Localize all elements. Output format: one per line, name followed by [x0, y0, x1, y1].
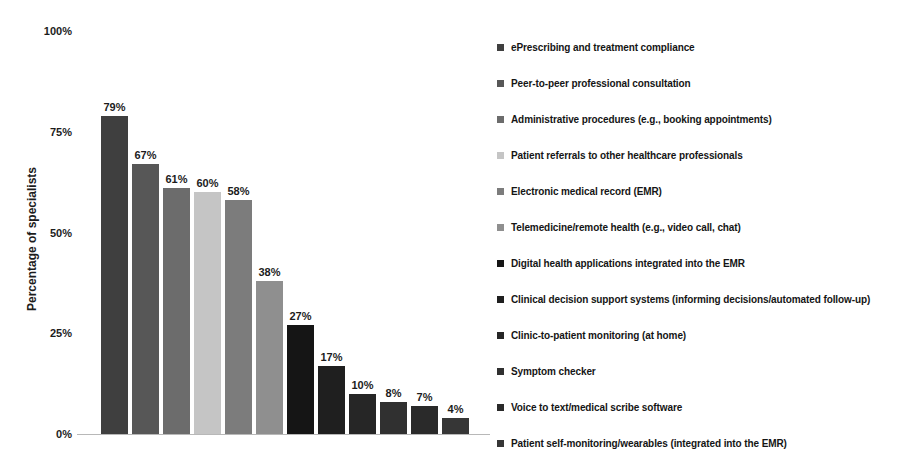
bar-group: 67% — [132, 149, 159, 434]
legend-marker-swatch — [497, 404, 504, 411]
y-tick-label: 75% — [12, 124, 72, 140]
legend-item: Clinical decision support systems (infor… — [497, 281, 897, 317]
legend-marker-swatch — [497, 116, 504, 123]
bar-value-label: 60% — [196, 177, 218, 189]
legend-item-label: Patient referrals to other healthcare pr… — [511, 150, 743, 161]
legend-item-label: Patient self-monitoring/wearables (integ… — [511, 438, 787, 449]
bar-value-label: 27% — [289, 310, 311, 322]
legend-item-label: Clinical decision support systems (infor… — [511, 294, 870, 305]
bar-chart: Percentage of specialists 100%75%50%25%0… — [0, 0, 899, 466]
bar-group: 79% — [101, 101, 128, 434]
legend-marker-swatch — [497, 80, 504, 87]
legend-item: Voice to text/medical scribe software — [497, 389, 897, 425]
legend-item: Administrative procedures (e.g., booking… — [497, 101, 897, 137]
legend-item: ePrescribing and treatment compliance — [497, 29, 897, 65]
legend-item: Peer-to-peer professional consultation — [497, 65, 897, 101]
bar-value-label: 38% — [258, 266, 280, 278]
bar — [132, 164, 159, 434]
legend-item-label: Telemedicine/remote health (e.g., video … — [511, 222, 741, 233]
bar-value-label: 79% — [103, 101, 125, 113]
legend-item-label: Symptom checker — [511, 366, 596, 377]
bar — [349, 394, 376, 434]
bar-value-label: 7% — [417, 391, 433, 403]
bar — [225, 200, 252, 434]
bar — [442, 418, 469, 434]
legend: ePrescribing and treatment compliancePee… — [497, 29, 897, 461]
legend-item-label: Clinic-to-patient monitoring (at home) — [511, 330, 686, 341]
bar — [287, 325, 314, 434]
bar — [256, 281, 283, 434]
bar-value-label: 4% — [448, 403, 464, 415]
legend-marker-swatch — [497, 296, 504, 303]
legend-item-label: Peer-to-peer professional consultation — [511, 78, 691, 89]
legend-item-label: Digital health applications integrated i… — [511, 258, 745, 269]
legend-marker-swatch — [497, 260, 504, 267]
bar-group: 61% — [163, 173, 190, 434]
bar-group: 58% — [225, 185, 252, 434]
bar-value-label: 8% — [386, 387, 402, 399]
bar-group: 38% — [256, 266, 283, 434]
bar-group: 60% — [194, 177, 221, 434]
plot-area: 79%67%61%60%58%38%27%17%10%8%7%4% — [101, 31, 469, 434]
legend-item: Patient referrals to other healthcare pr… — [497, 137, 897, 173]
bar-group: 27% — [287, 310, 314, 434]
legend-item-label: Voice to text/medical scribe software — [511, 402, 682, 413]
legend-marker-swatch — [497, 440, 504, 447]
y-tick-label: 50% — [12, 225, 72, 241]
bar-group: 17% — [318, 351, 345, 435]
bar — [163, 188, 190, 434]
legend-item: Symptom checker — [497, 353, 897, 389]
legend-marker-swatch — [497, 224, 504, 231]
legend-marker-swatch — [497, 44, 504, 51]
legend-item: Electronic medical record (EMR) — [497, 173, 897, 209]
bar — [101, 116, 128, 434]
bar-group: 4% — [442, 403, 469, 434]
bar — [411, 406, 438, 434]
bar-group: 10% — [349, 379, 376, 434]
legend-item-label: Administrative procedures (e.g., booking… — [511, 114, 772, 125]
bar-value-label: 61% — [165, 173, 187, 185]
bar-value-label: 58% — [227, 185, 249, 197]
bar-value-label: 10% — [351, 379, 373, 391]
bar — [380, 402, 407, 434]
legend-marker-swatch — [497, 368, 504, 375]
x-axis-line — [77, 434, 490, 435]
bar-group: 7% — [411, 391, 438, 434]
bar-value-label: 17% — [320, 351, 342, 363]
bar-group: 8% — [380, 387, 407, 434]
legend-marker-swatch — [497, 152, 504, 159]
legend-item: Telemedicine/remote health (e.g., video … — [497, 209, 897, 245]
bar — [318, 366, 345, 435]
legend-item: Clinic-to-patient monitoring (at home) — [497, 317, 897, 353]
y-tick-label: 25% — [12, 325, 72, 341]
legend-marker-swatch — [497, 332, 504, 339]
legend-marker-swatch — [497, 188, 504, 195]
legend-item-label: ePrescribing and treatment compliance — [511, 42, 695, 53]
y-tick-label: 100% — [12, 23, 72, 39]
bar-value-label: 67% — [134, 149, 156, 161]
legend-item: Digital health applications integrated i… — [497, 245, 897, 281]
bar — [194, 192, 221, 434]
legend-item-label: Electronic medical record (EMR) — [511, 186, 662, 197]
legend-item: Patient self-monitoring/wearables (integ… — [497, 425, 897, 461]
y-tick-label: 0% — [12, 426, 72, 442]
